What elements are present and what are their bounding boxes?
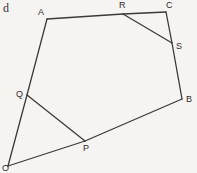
vertex-label-p: P: [83, 144, 89, 153]
edge-a-r: [47, 14, 123, 19]
edge-q-p: [27, 95, 85, 141]
edge-s-b: [172, 43, 182, 99]
vertex-label-o: O: [2, 164, 9, 173]
vertex-label-r: R: [119, 1, 126, 10]
edge-q-a: [27, 19, 47, 95]
edge-b-p: [85, 99, 182, 141]
polygon-drawing: [0, 0, 197, 173]
edge-c-s: [166, 12, 172, 43]
geometry-figure: d A R C S B P O Q: [0, 0, 197, 173]
edge-p-o: [8, 141, 85, 166]
vertex-label-a: A: [38, 8, 44, 17]
vertex-label-b: B: [186, 95, 192, 104]
vertex-label-c: C: [166, 1, 173, 10]
edge-r-s: [123, 14, 172, 43]
vertex-label-q: Q: [16, 90, 23, 99]
edge-o-q: [8, 95, 27, 166]
edge-r-c: [123, 12, 166, 14]
vertex-label-s: S: [176, 42, 182, 51]
